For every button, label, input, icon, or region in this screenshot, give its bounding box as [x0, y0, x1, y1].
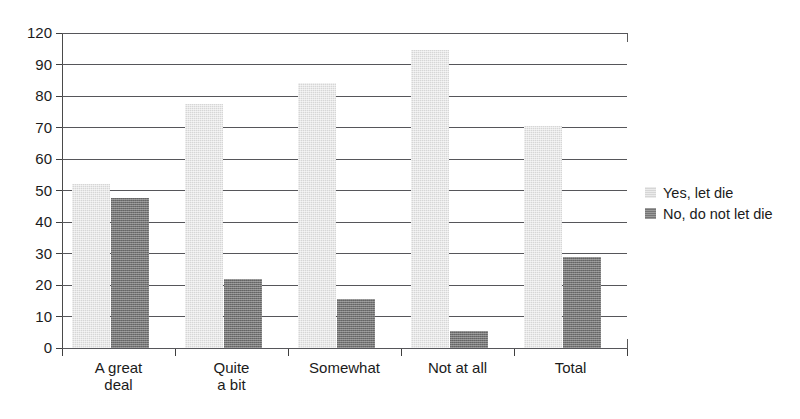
x-tick-mark — [401, 349, 402, 356]
plot-frame-right-bottom — [627, 339, 628, 349]
bar-yes-let-die — [298, 83, 336, 348]
y-tick-label: 120 — [8, 25, 52, 40]
bar-no-do-not-let-die — [111, 198, 149, 348]
legend: Yes, let dieNo, do not let die — [645, 183, 795, 225]
y-tick-label: 90 — [8, 57, 52, 72]
bar-yes-let-die — [72, 184, 110, 348]
bar-no-do-not-let-die — [450, 331, 488, 348]
x-category-label: Somewhat — [288, 359, 401, 376]
y-tick-label: 0 — [8, 340, 52, 355]
x-tick-mark — [514, 349, 515, 356]
x-category-label: A great deal — [62, 359, 175, 393]
x-category-label: Total — [514, 359, 627, 376]
legend-swatch-icon — [645, 208, 656, 219]
x-tick-mark — [288, 349, 289, 356]
plot-area — [62, 33, 627, 348]
bars-layer — [62, 33, 627, 348]
y-tick-label: 30 — [8, 246, 52, 261]
bar-yes-let-die — [411, 50, 449, 348]
legend-item: Yes, let die — [645, 183, 795, 202]
legend-label: No, do not let die — [663, 206, 773, 222]
y-tick-label: 60 — [8, 151, 52, 166]
legend-swatch-icon — [645, 187, 656, 198]
y-tick-label: 10 — [8, 309, 52, 324]
y-tick-label: 40 — [8, 214, 52, 229]
legend-label: Yes, let die — [663, 185, 733, 201]
x-tick-mark — [62, 349, 63, 356]
y-tick-label: 80 — [8, 88, 52, 103]
y-axis-tick-labels: 0102030405060708090120 — [0, 33, 52, 349]
y-tick-label: 20 — [8, 277, 52, 292]
y-tick-label: 50 — [8, 183, 52, 198]
x-category-label: Not at all — [401, 359, 514, 376]
bar-chart: 0102030405060708090120 A great dealQuite… — [0, 0, 800, 419]
x-tick-mark — [627, 349, 628, 356]
bar-no-do-not-let-die — [224, 279, 262, 348]
x-tick-mark — [175, 349, 176, 356]
bar-yes-let-die — [185, 104, 223, 348]
bar-yes-let-die — [524, 126, 562, 348]
x-category-label: Quite a bit — [175, 359, 288, 393]
bar-no-do-not-let-die — [337, 299, 375, 348]
legend-item: No, do not let die — [645, 204, 795, 223]
plot-frame-right-top — [627, 33, 628, 42]
bar-no-do-not-let-die — [563, 257, 601, 348]
y-tick-label: 70 — [8, 120, 52, 135]
